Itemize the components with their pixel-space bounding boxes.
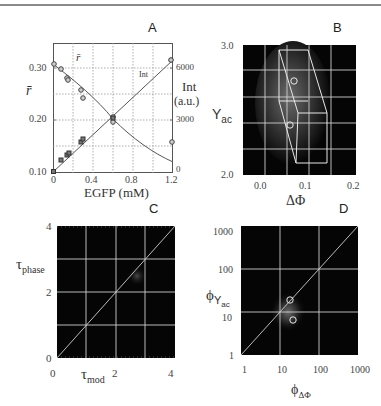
c-xlabel: τmod (81, 366, 105, 385)
a-xtick-0: 0 (51, 174, 56, 185)
c-ylabel-sub: phase (22, 264, 45, 275)
panel-d-letter: D (339, 201, 348, 216)
a-ytick-0-20: 0.20 (29, 113, 47, 124)
a-ylabel-right-int: Int (182, 79, 196, 95)
panel-a-plot (53, 43, 173, 173)
c-ytick-4: 4 (46, 220, 52, 232)
d-ylabel-sub: Yac (214, 294, 230, 306)
b-ytick-2-0: 2.0 (221, 169, 234, 180)
b-ylabel: Yac (212, 106, 232, 125)
d-ytick-100: 100 (218, 264, 233, 275)
b-xtick-0-2: 0.2 (347, 180, 360, 191)
a-ytick-0-10: 0.10 (29, 166, 47, 177)
c-xtick-2: 2 (112, 367, 118, 379)
c-ylabel: τphase (16, 256, 45, 275)
d-ylabel-subsub: ac (221, 300, 229, 309)
d-xtick-10: 10 (277, 364, 287, 375)
a-ytick-right-3000: 3000 (176, 114, 194, 124)
a-ytick-right-0: 0 (176, 164, 181, 174)
a-ytick-0-30: 0.30 (29, 62, 47, 73)
panel-b-letter: B (333, 20, 342, 35)
c-xtick-4: 4 (168, 367, 174, 379)
a-ytick-right-6000: 6000 (176, 62, 194, 72)
b-ylabel-main: Y (212, 106, 221, 122)
d-xtick-100: 100 (313, 364, 328, 375)
panel-b-plot (243, 45, 356, 175)
d-xtick-1000: 1000 (350, 364, 370, 375)
d-ylabel: ϕYac (206, 287, 230, 309)
c-xlabel-sub: mod (87, 374, 105, 385)
panel-c-plot (57, 226, 175, 358)
c-xtick-0: 0 (50, 367, 56, 379)
b-xlabel: ΔΦ (286, 193, 305, 209)
c-ytick-2: 2 (46, 286, 52, 298)
b-xtick-0-1: 0.1 (299, 180, 312, 191)
b-xtick-0-0: 0.0 (254, 180, 267, 191)
panel-d-plot (241, 226, 358, 355)
a-xtick-0-8: 0.8 (125, 174, 138, 185)
b-ytick-3-0: 3.0 (221, 40, 234, 51)
int-curve-label: Int (139, 70, 148, 79)
panel-a-letter: A (148, 20, 157, 35)
top-rule (0, 4, 381, 6)
d-ytick-1000: 1000 (213, 226, 233, 237)
panel-c-letter: C (149, 201, 158, 216)
b-ylabel-sub: ac (221, 114, 232, 125)
a-ylabel-r-bar: r̄ (26, 83, 31, 99)
c-ytick-0: 0 (46, 352, 52, 364)
a-xlabel: EGFP (mM) (84, 185, 149, 201)
d-ytick-10: 10 (222, 312, 232, 323)
d-xlabel: ϕΔΦ (291, 382, 311, 400)
a-xtick-0-4: 0.4 (85, 174, 98, 185)
a-ylabel-right-au: (a.u.) (174, 94, 199, 109)
d-ytick-1: 1 (229, 350, 234, 361)
d-ylabel-main: ϕ (206, 287, 214, 303)
d-xtick-1: 1 (242, 364, 247, 375)
d-xlabel-sub: ΔΦ (298, 390, 310, 400)
a-xtick-1-2: 1.2 (165, 174, 178, 185)
r-bar-curve-label: r̄ (76, 51, 80, 63)
